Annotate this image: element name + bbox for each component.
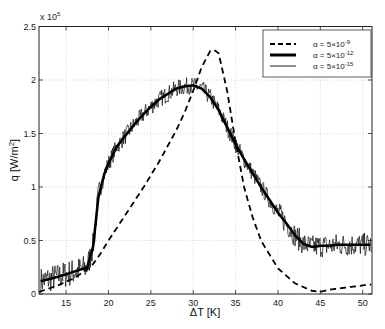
- x-axis-label: ΔT [K]: [190, 306, 220, 318]
- chart: 152025303540455000.511.522.5 x 105 ΔT [K…: [0, 0, 385, 329]
- x-tick-label: 25: [146, 298, 156, 308]
- x-tick-label: 45: [315, 298, 325, 308]
- x-tick-label: 35: [231, 298, 241, 308]
- x-tick-label: 40: [273, 298, 283, 308]
- y-multiplier: x 105: [40, 11, 61, 22]
- y-axis-label: q [W/m2]: [7, 139, 20, 181]
- y-tick-label: 0.5: [23, 236, 36, 246]
- plot-curves: [39, 50, 371, 293]
- y-tick-label: 2.5: [23, 22, 36, 32]
- x-tick-label: 50: [358, 298, 368, 308]
- y-tick-label: 1.5: [23, 129, 36, 139]
- y-tick-label: 0: [31, 289, 36, 299]
- x-tick-label: 15: [61, 298, 71, 308]
- y-tick-label: 2: [31, 75, 36, 85]
- y-tick-label: 1: [31, 182, 36, 192]
- legend: α = 5×10-9 α = 5×10-12 α = 5×10-15: [263, 30, 371, 77]
- x-tick-label: 20: [103, 298, 113, 308]
